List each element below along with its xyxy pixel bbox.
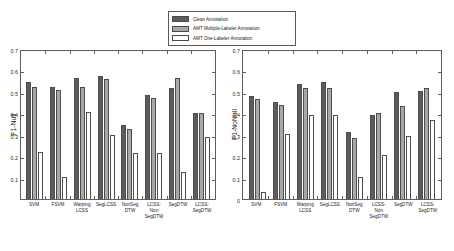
y-tick-mark — [212, 158, 215, 159]
x-tick-label: SegDTW — [393, 202, 414, 221]
bar — [333, 115, 338, 199]
bar-group — [192, 51, 210, 199]
x-tick-mark — [45, 196, 46, 199]
bar — [321, 82, 326, 199]
y-tick-mark — [21, 94, 24, 95]
x-tick-mark — [392, 196, 393, 199]
bar — [406, 136, 411, 199]
x-tick-mark — [367, 51, 368, 54]
x-tick-label: FSVM — [48, 202, 69, 221]
bar — [358, 177, 363, 200]
y-tick-mark — [21, 72, 24, 73]
bar — [38, 152, 43, 199]
x-tick-label: LCSS-SegDTW — [192, 202, 213, 221]
bar — [121, 125, 126, 199]
chart-legend: Clean Annotation AMT Multiple-Labeler An… — [168, 11, 296, 46]
y-tick-mark — [212, 137, 215, 138]
bar — [26, 82, 31, 199]
x-tick-mark — [293, 51, 294, 54]
bar — [327, 88, 332, 199]
bar — [199, 113, 204, 199]
figure-root: Clean Annotation AMT Multiple-Labeler An… — [0, 0, 454, 251]
x-tick-mark — [70, 51, 71, 54]
y-tick-label: 0.6 — [11, 69, 22, 75]
y-tick-label: 0.2 — [11, 155, 22, 161]
x-tick-mark — [191, 196, 192, 199]
y-tick-label: 0.6 — [233, 69, 244, 75]
y-tick-mark — [438, 137, 441, 138]
y-tick-label: 0.4 — [11, 112, 22, 118]
bar — [273, 102, 278, 200]
bar-group — [369, 51, 387, 199]
bar — [86, 112, 91, 199]
bar — [430, 120, 435, 199]
bar-group — [272, 51, 290, 199]
bar — [255, 99, 260, 199]
legend-item-clean: Clean Annotation — [172, 15, 292, 24]
bar-group — [73, 51, 91, 199]
y-tick-mark — [438, 72, 441, 73]
y-tick-mark — [21, 180, 24, 181]
x-tick-mark — [317, 51, 318, 54]
x-tick-label: SegLCSS — [96, 202, 117, 221]
bar — [62, 177, 67, 200]
y-tick-mark — [243, 115, 246, 116]
x-tick-mark — [142, 196, 143, 199]
x-tick-mark — [191, 51, 192, 54]
x-tick-mark — [70, 196, 71, 199]
y-tick-mark — [438, 94, 441, 95]
bar — [279, 105, 284, 199]
bar — [127, 129, 132, 199]
x-tick-mark — [94, 196, 95, 199]
bar — [424, 88, 429, 199]
bar — [151, 98, 156, 199]
x-tick-mark — [142, 51, 143, 54]
x-tick-mark — [342, 196, 343, 199]
bar-group — [145, 51, 163, 199]
bar — [285, 134, 290, 199]
bar-group — [418, 51, 436, 199]
bar — [418, 91, 423, 199]
bar — [346, 132, 351, 200]
bar — [352, 138, 357, 199]
bar — [297, 84, 302, 199]
axes-right: 00.10.20.30.40.50.60.7 — [242, 50, 442, 200]
bar — [133, 153, 138, 199]
x-tick-mark — [317, 196, 318, 199]
bar — [394, 92, 399, 199]
chart-panel-f1-nonull: F1-NoNull 00.10.20.30.40.50.60.7 SVMFSVM… — [228, 48, 450, 248]
bar — [145, 95, 150, 199]
bar-series-left — [21, 51, 215, 199]
x-tick-mark — [94, 51, 95, 54]
x-tick-label: NonSeg DTW — [344, 202, 365, 221]
y-tick-mark — [21, 158, 24, 159]
bar — [181, 172, 186, 199]
bar — [205, 137, 210, 199]
bar — [400, 106, 405, 199]
y-tick-mark — [21, 115, 24, 116]
x-axis-labels-left: SVMFSVMWarping LCSSSegLCSSNonSeg DTWLCSS… — [20, 202, 216, 221]
bar — [370, 115, 375, 199]
bar-group — [50, 51, 68, 199]
bar — [98, 76, 103, 199]
x-tick-mark — [268, 196, 269, 199]
bar — [175, 78, 180, 199]
y-tick-label: 0.7 — [11, 48, 22, 54]
x-tick-label: LCSS-SegDTW — [417, 202, 438, 221]
x-tick-mark — [167, 51, 168, 54]
bar-group — [297, 51, 315, 199]
bar — [80, 87, 85, 200]
y-tick-mark — [212, 94, 215, 95]
x-axis-labels-right: SVMFSVMWarping LCSSSegLCSSNonSeg DTWLCSS… — [242, 202, 442, 221]
y-tick-label: 0.1 — [233, 177, 244, 183]
x-tick-label: LCSS-Non SegDTW — [368, 202, 389, 221]
plot-area-right: 00.10.20.30.40.50.60.7 SVMFSVMWarping LC… — [242, 50, 442, 200]
x-tick-mark — [268, 51, 269, 54]
x-tick-mark — [367, 196, 368, 199]
bar-group — [168, 51, 186, 199]
bar — [376, 113, 381, 199]
x-tick-mark — [45, 51, 46, 54]
bar — [56, 90, 61, 199]
x-tick-label: Warping LCSS — [72, 202, 93, 221]
bar — [193, 113, 198, 199]
